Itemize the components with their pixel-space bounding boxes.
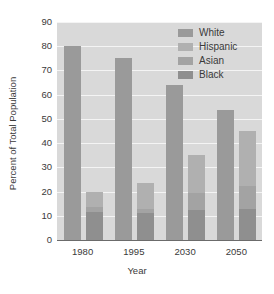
y-tick-label: 70 <box>22 65 52 75</box>
bar-white <box>166 85 183 240</box>
y-tick-label: 0 <box>22 235 52 245</box>
bar-segment-black <box>137 213 154 240</box>
bar-segment-black <box>86 212 103 240</box>
chart-legend: WhiteHispanicAsianBlack <box>178 27 237 81</box>
bar-segment-black <box>188 210 205 240</box>
bar-minority-stacked <box>239 131 256 240</box>
bar-minority-stacked <box>137 183 154 240</box>
legend-label: Black <box>199 70 223 80</box>
legend-label: White <box>199 28 225 38</box>
y-tick-label: 60 <box>22 90 52 100</box>
bar-segment-hispanic <box>188 155 205 193</box>
legend-label: Asian <box>199 56 224 66</box>
y-axis-ticks: 0102030405060708090 <box>18 0 52 294</box>
bar-segment-hispanic <box>86 192 103 208</box>
y-tick-label: 90 <box>22 17 52 27</box>
bar-segment-asian <box>188 193 205 210</box>
bar-segment-asian <box>239 186 256 209</box>
x-axis-label: Year <box>0 265 274 276</box>
bar-white <box>115 58 132 240</box>
y-axis-label: Percent of Total Population <box>7 46 18 222</box>
bar-segment-asian <box>137 209 154 214</box>
bar-chart: Percent of Total Population 010203040506… <box>0 0 274 294</box>
x-axis-line <box>57 240 262 241</box>
bar-white <box>64 46 81 240</box>
legend-item: Hispanic <box>178 41 237 53</box>
gridline <box>57 95 262 96</box>
bar-minority-stacked <box>86 192 103 240</box>
y-tick-label: 20 <box>22 187 52 197</box>
legend-item: Black <box>178 69 237 81</box>
bar-segment-asian <box>86 207 103 212</box>
y-tick-label: 80 <box>22 41 52 51</box>
bar-segment-black <box>239 209 256 240</box>
bar-segment-hispanic <box>239 131 256 186</box>
x-tick-label: 2050 <box>208 246 264 257</box>
gridline <box>57 22 262 23</box>
bar-white <box>217 110 234 240</box>
x-tick-label: 2030 <box>157 246 213 257</box>
legend-item: White <box>178 27 237 39</box>
legend-swatch-icon <box>178 43 193 51</box>
x-tick-label: 1980 <box>55 246 111 257</box>
legend-swatch-icon <box>178 71 193 79</box>
legend-swatch-icon <box>178 29 193 37</box>
y-tick-label: 40 <box>22 138 52 148</box>
bar-minority-stacked <box>188 155 205 240</box>
legend-swatch-icon <box>178 57 193 65</box>
y-tick-label: 50 <box>22 114 52 124</box>
y-tick-label: 10 <box>22 211 52 221</box>
legend-item: Asian <box>178 55 237 67</box>
x-tick-label: 1995 <box>106 246 162 257</box>
y-tick-label: 30 <box>22 162 52 172</box>
bar-segment-hispanic <box>137 183 154 208</box>
legend-label: Hispanic <box>199 42 237 52</box>
